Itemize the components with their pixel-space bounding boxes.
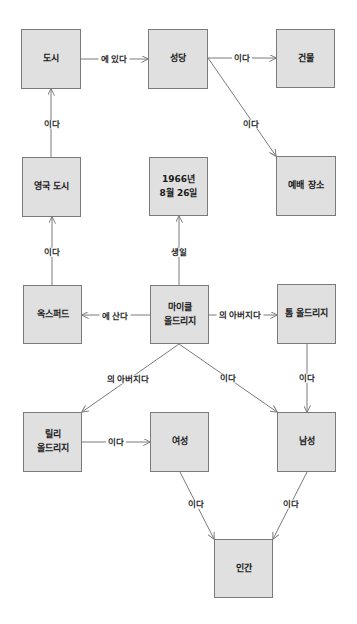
edge-label-michael-lily: 의 아버지다 <box>105 375 152 384</box>
node-human[interactable]: 인간 <box>214 539 273 598</box>
edge-label-oxford-ukcity: 이다 <box>42 248 62 257</box>
node-place-of-worship[interactable]: 예배 장소 <box>276 156 336 216</box>
node-oxford[interactable]: 옥스퍼드 <box>23 285 82 344</box>
edge-label-lily-female: 이다 <box>106 438 126 447</box>
edge-label-tom-male: 이다 <box>297 374 317 383</box>
node-building[interactable]: 건물 <box>276 29 335 88</box>
edge-label-female-human: 이다 <box>186 500 206 509</box>
edge-label-michael-oxford: 에 산다 <box>100 312 131 321</box>
edge-cathedral-worship <box>208 58 276 156</box>
edge-label-michael-male: 이다 <box>218 374 238 383</box>
node-lily-aldridge[interactable]: 릴리 올드리지 <box>23 412 82 472</box>
node-cathedral[interactable]: 성당 <box>148 29 208 89</box>
edge-label-ukcity-city: 이다 <box>42 120 62 129</box>
edge-label-michael-date: 생일 <box>169 248 189 257</box>
node-city[interactable]: 도시 <box>21 29 81 89</box>
node-male[interactable]: 남성 <box>277 412 336 472</box>
node-uk-city[interactable]: 영국 도시 <box>22 157 81 217</box>
node-female[interactable]: 여성 <box>150 412 209 472</box>
node-michael-aldridge[interactable]: 마이클 올드리지 <box>150 285 209 344</box>
edge-label-cathedral-worship: 이다 <box>241 120 261 129</box>
node-tom-aldridge[interactable]: 톰 올드리지 <box>277 284 336 344</box>
edge-label-city-cathedral: 에 있다 <box>99 55 130 64</box>
diagram-canvas: 에 있다 이다 이다 이다 이다 생일 에 산다 의 아버지다 의 아버지다 이… <box>0 0 357 624</box>
node-birth-date[interactable]: 1966년 8월 26일 <box>149 157 208 216</box>
edge-label-michael-tom: 의 아버지다 <box>217 311 264 320</box>
edge-label-cathedral-building: 이다 <box>232 54 252 63</box>
edge-label-male-human: 이다 <box>281 500 301 509</box>
